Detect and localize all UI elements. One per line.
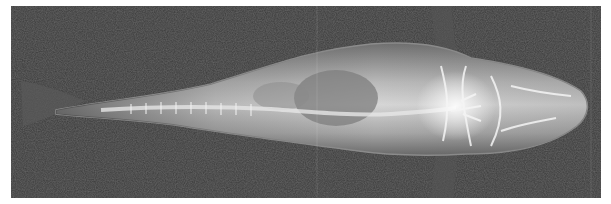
xray-image bbox=[11, 6, 601, 198]
fish-xray-graphic bbox=[11, 6, 601, 198]
